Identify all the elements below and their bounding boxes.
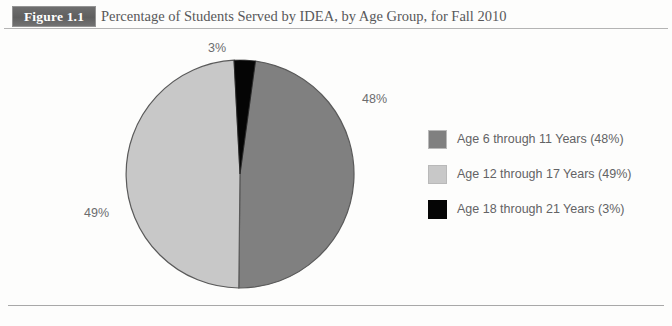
pie-value-label-age-12-17: 49%: [84, 206, 109, 220]
pie-chart-svg: [122, 56, 358, 292]
figure-number-badge: Figure 1.1: [12, 6, 96, 27]
footer-divider: [8, 305, 664, 306]
legend-label-age-12-17: Age 12 through 17 Years (49%): [457, 166, 631, 183]
chart-area: 3% 48% 49% Age 6 through 11 Years (48%) …: [0, 30, 672, 302]
legend-swatch-age-12-17: [428, 165, 447, 184]
legend-swatch-age-18-21: [428, 200, 447, 219]
figure-panel: Figure 1.1 Percentage of Students Served…: [0, 0, 672, 326]
pie-chart: [122, 56, 358, 292]
figure-header: Figure 1.1 Percentage of Students Served…: [0, 0, 672, 30]
legend-item[interactable]: Age 12 through 17 Years (49%): [428, 165, 664, 200]
legend-item[interactable]: Age 18 through 21 Years (3%): [428, 200, 664, 235]
figure-title: Percentage of Students Served by IDEA, b…: [101, 6, 507, 27]
pie-slice-age-6-11[interactable]: [239, 61, 354, 288]
pie-value-label-age-6-11: 48%: [362, 92, 387, 106]
legend-item[interactable]: Age 6 through 11 Years (48%): [428, 130, 664, 165]
legend-swatch-age-6-11: [428, 130, 447, 149]
chart-legend: Age 6 through 11 Years (48%) Age 12 thro…: [428, 130, 664, 235]
legend-label-age-6-11: Age 6 through 11 Years (48%): [457, 131, 624, 148]
pie-slice-age-12-17[interactable]: [126, 60, 240, 288]
pie-value-label-age-18-21: 3%: [208, 41, 226, 55]
legend-label-age-18-21: Age 18 through 21 Years (3%): [457, 201, 624, 218]
header-divider: [4, 28, 668, 29]
